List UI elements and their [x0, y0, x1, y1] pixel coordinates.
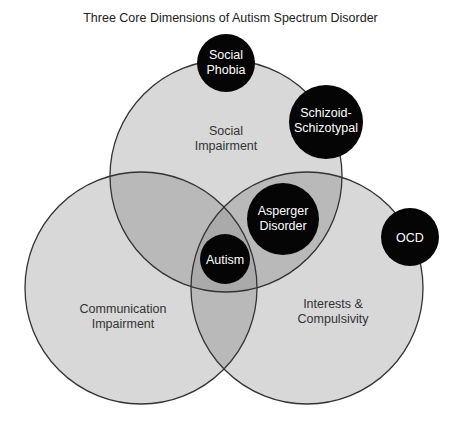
- svg-text:OCD: OCD: [396, 231, 424, 245]
- label-social-line1: Social: [209, 124, 243, 138]
- svg-text:Social: Social: [209, 48, 243, 62]
- disorder-social-phobia: Social Phobia: [197, 34, 255, 92]
- label-communication-line2: Impairment: [92, 317, 155, 331]
- label-communication-line1: Communication: [80, 302, 167, 316]
- disorder-schizoid-schizotypal: Schizoid- Schizotypal: [289, 85, 363, 159]
- venn-diagram: Social Impairment Communication Impairme…: [0, 0, 461, 425]
- disorder-asperger: Asperger Disorder: [247, 183, 319, 255]
- svg-text:Asperger: Asperger: [258, 204, 309, 218]
- svg-text:Schizotypal: Schizotypal: [294, 121, 358, 135]
- svg-text:Disorder: Disorder: [259, 219, 306, 233]
- label-interests-line1: Interests &: [303, 297, 363, 311]
- svg-text:Phobia: Phobia: [207, 63, 246, 77]
- svg-text:Autism: Autism: [206, 253, 244, 267]
- disorder-ocd: OCD: [381, 208, 439, 266]
- label-interests-line2: Compulsivity: [298, 312, 370, 326]
- label-social-line2: Impairment: [195, 139, 258, 153]
- disorder-autism: Autism: [200, 234, 250, 284]
- svg-text:Schizoid-: Schizoid-: [300, 106, 351, 120]
